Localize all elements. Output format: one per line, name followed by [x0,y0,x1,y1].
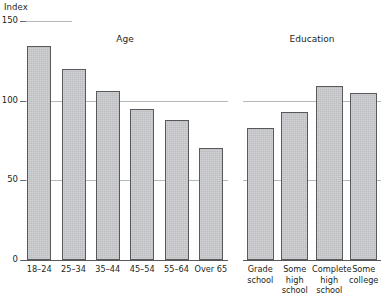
x-tick-label: Over 65 [194,264,228,275]
x-tick-label-line: school [312,285,347,296]
x-tick-label-line: Some [278,264,313,275]
x-tick-label: 45–54 [125,264,159,275]
bar[interactable] [350,93,377,260]
bar[interactable] [199,148,223,260]
y-tick-label-150: 150 [0,16,18,25]
x-tick-label-line: school [278,285,313,296]
x-tick-label-line: college [347,275,382,286]
y-tick-label-50: 50 [0,175,18,184]
bar[interactable] [281,112,308,260]
x-tick-label-line: 18–24 [22,264,56,275]
gridline-150 [22,21,72,22]
y-tick-mark-50 [20,180,26,181]
panel-title-education-panel: Education [243,34,381,44]
y-tick-mark-100 [20,101,26,102]
gridline-100-panel-0 [22,101,228,102]
x-axis-baseline-panel-0 [22,260,228,261]
x-tick-label-line: Over 65 [194,264,228,275]
y-tick-mark-150 [20,21,26,22]
x-tick-label-line: high [312,275,347,286]
x-tick-label: 35–44 [91,264,125,275]
x-tick-label-line: Complete [312,264,347,275]
panel-title-age-panel: Age [22,34,228,44]
x-tick-label-line: Grade [243,264,278,275]
bar[interactable] [247,128,274,260]
x-tick-label: 18–24 [22,264,56,275]
x-tick-label-line: school [243,275,278,286]
x-tick-label: 55–64 [159,264,193,275]
x-tick-label-line: 25–34 [56,264,90,275]
bar[interactable] [130,109,154,260]
bar[interactable] [27,46,51,260]
y-tick-label-0: 0 [0,255,18,264]
gridline-50-panel-0 [22,180,228,181]
bar[interactable] [62,69,86,260]
x-tick-label-line: 35–44 [91,264,125,275]
bar[interactable] [96,91,120,260]
bar-chart: Index 050100150 Age18–2425–3435–4445–545… [0,0,383,307]
x-axis-baseline-panel-1 [243,260,381,261]
x-tick-label: 25–34 [56,264,90,275]
x-tick-label-line: Some [347,264,382,275]
x-tick-label: Somecollege [347,264,382,285]
x-tick-label: Somehighschool [278,264,313,296]
x-tick-label-line: 55–64 [159,264,193,275]
x-tick-label: Completehighschool [312,264,347,296]
bar[interactable] [316,86,343,260]
x-tick-label-line: 45–54 [125,264,159,275]
x-tick-label: Gradeschool [243,264,278,285]
y-axis-title: Index [4,2,28,12]
y-tick-label-100: 100 [0,96,18,105]
bar[interactable] [165,120,189,260]
x-tick-label-line: high [278,275,313,286]
